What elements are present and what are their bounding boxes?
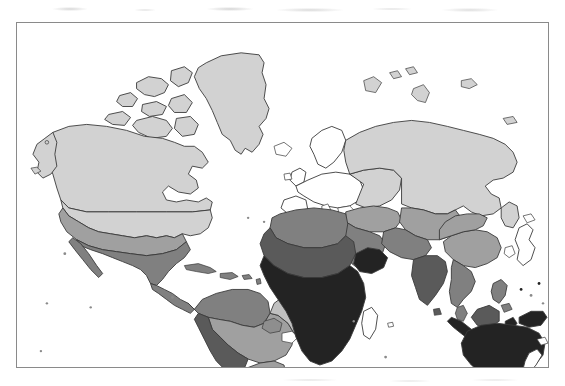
region-new-siberian-islands xyxy=(503,116,517,124)
region-canada-mainland xyxy=(45,124,212,211)
ocean-island-dot xyxy=(40,350,42,352)
region-svalbard xyxy=(364,77,382,93)
region-greenland xyxy=(194,53,269,154)
region-hokkaido xyxy=(523,214,535,223)
region-puerto-rico xyxy=(242,275,252,280)
region-japan xyxy=(515,224,535,266)
region-arctic-island-i xyxy=(406,67,418,75)
ocean-island-dot xyxy=(538,282,541,285)
ocean-island-dot xyxy=(542,302,544,304)
region-philippines xyxy=(491,280,507,304)
region-kamchatka xyxy=(501,202,519,228)
region-scandinavia xyxy=(310,126,346,168)
region-franz-josef xyxy=(390,71,402,79)
map-frame xyxy=(16,22,549,368)
figure-root xyxy=(0,0,565,386)
region-madagascar xyxy=(362,307,378,339)
region-severnaya-zemlya xyxy=(461,79,477,89)
ocean-island-dot xyxy=(90,306,92,308)
scan-artifact-bottom xyxy=(250,376,550,385)
region-mauritius-dot xyxy=(388,322,394,327)
ocean-island-dot xyxy=(171,296,174,299)
region-sri-lanka xyxy=(433,308,441,315)
region-novaya-zemlya xyxy=(412,85,430,103)
ocean-island-dot xyxy=(247,217,249,219)
region-arctic-island-e xyxy=(168,95,192,113)
ocean-island-dot xyxy=(384,356,387,359)
region-hispaniola xyxy=(220,273,238,280)
ocean-island-dot xyxy=(46,302,48,304)
region-arctic-island-h xyxy=(174,116,198,136)
region-arctic-island-d xyxy=(142,102,167,117)
ocean-island-dot xyxy=(63,252,66,255)
ocean-island-dot xyxy=(353,320,355,322)
ocean-island-dot xyxy=(520,288,523,291)
region-arctic-island-b xyxy=(170,67,192,87)
region-papua-new-guinea xyxy=(519,311,547,327)
region-malay-peninsula xyxy=(455,305,467,321)
world-map xyxy=(17,23,548,367)
ocean-island-dot xyxy=(530,294,533,297)
region-iceland xyxy=(274,142,292,156)
region-lesser-antilles xyxy=(256,279,261,285)
region-arctic-island-c xyxy=(117,93,138,107)
region-philippines-s xyxy=(501,303,512,312)
region-canada-arctic-islands xyxy=(137,77,169,97)
region-arctic-island-f xyxy=(105,111,131,125)
region-korea xyxy=(504,246,515,258)
region-argentina xyxy=(244,361,286,367)
region-india xyxy=(412,256,448,306)
region-cuba xyxy=(184,264,216,274)
region-ireland xyxy=(284,173,292,180)
ocean-island-dot xyxy=(263,221,265,223)
scan-artifact-top xyxy=(40,4,520,15)
